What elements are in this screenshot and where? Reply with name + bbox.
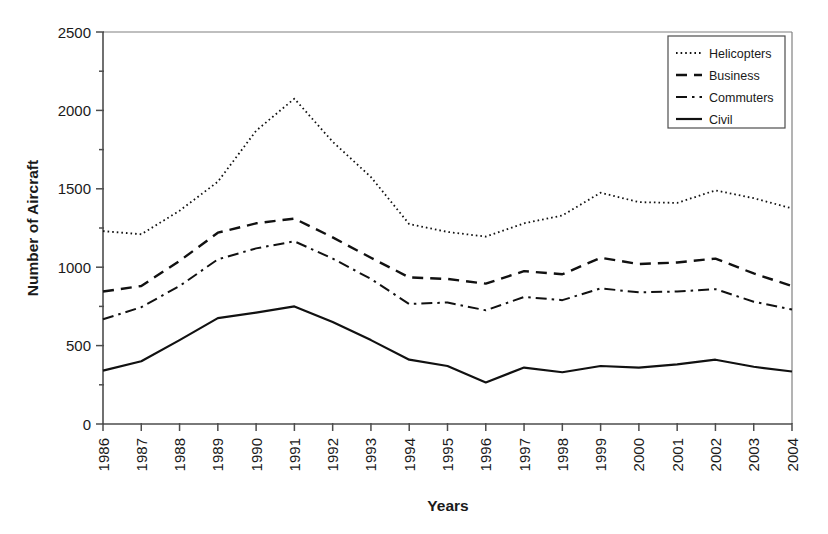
x-tick-label: 1987	[133, 438, 150, 471]
x-tick-label: 1997	[516, 438, 533, 471]
chart-figure: 05001000150020002500 1986198719881989199…	[0, 0, 828, 534]
series-line-civil	[103, 306, 792, 382]
y-tick-label: 1500	[58, 180, 91, 197]
x-tick-label: 1994	[401, 438, 418, 471]
x-tick-label: 2000	[630, 438, 647, 471]
x-tick-label: 2001	[669, 438, 686, 471]
x-tick-label: 1989	[209, 438, 226, 471]
x-tick-label: 1990	[248, 438, 265, 471]
series-line-business	[103, 219, 792, 292]
x-tick-label: 1993	[362, 438, 379, 471]
x-tick-label: 2004	[784, 438, 801, 471]
legend-label-business: Business	[709, 69, 760, 83]
chart-legend: HelicoptersBusinessCommutersCivil	[668, 36, 785, 128]
x-tick-label: 1992	[324, 438, 341, 471]
x-tick-label: 1991	[286, 438, 303, 471]
y-tick-label: 2500	[58, 24, 91, 41]
x-axis-ticks: 1986198719881989199019911992199319941995…	[95, 423, 801, 471]
y-tick-label: 500	[66, 337, 91, 354]
x-tick-label: 2002	[707, 438, 724, 471]
x-axis-title: Years	[427, 497, 468, 514]
x-tick-label: 2003	[745, 438, 762, 471]
x-tick-label: 1996	[477, 438, 494, 471]
legend-label-civil: Civil	[709, 113, 733, 127]
y-axis-ticks: 05001000150020002500	[58, 24, 104, 433]
x-tick-label: 1986	[95, 438, 112, 471]
y-tick-label: 1000	[58, 259, 91, 276]
x-tick-label: 1995	[439, 438, 456, 471]
series-lines	[103, 99, 792, 383]
x-tick-label: 1988	[171, 438, 188, 471]
x-tick-label: 1998	[554, 438, 571, 471]
y-tick-label: 0	[83, 416, 91, 433]
legend-label-helicopters: Helicopters	[709, 47, 772, 61]
y-tick-label: 2000	[58, 102, 91, 119]
line-chart: 05001000150020002500 1986198719881989199…	[0, 0, 828, 534]
x-tick-label: 1999	[592, 438, 609, 471]
series-line-commuters	[103, 241, 792, 319]
y-axis-title: Number of Aircraft	[24, 160, 41, 296]
legend-label-commuters: Commuters	[709, 91, 774, 105]
